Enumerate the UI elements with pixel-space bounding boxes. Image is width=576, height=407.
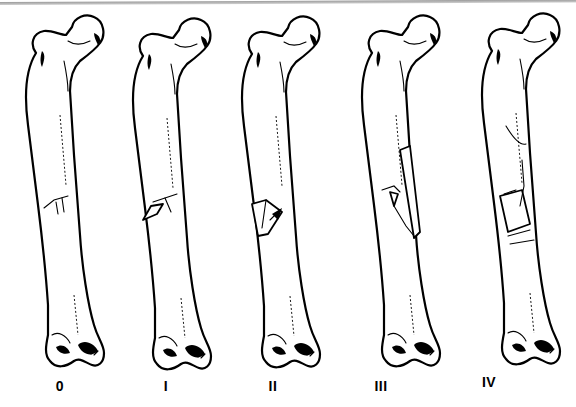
panel-label-iv: IV <box>482 374 496 390</box>
panel-label-0: 0 <box>56 378 64 394</box>
panel-label-i: I <box>164 378 168 394</box>
panel-label-ii: II <box>269 378 278 394</box>
femur-ii-large-butterfly <box>222 0 322 370</box>
femur-iv-segmental <box>464 0 564 370</box>
femur-0-simple-fracture <box>8 0 108 370</box>
femur-i-small-butterfly <box>115 0 215 370</box>
femur-iii-large-fragment <box>344 0 444 370</box>
panel-label-iii: III <box>374 378 387 394</box>
